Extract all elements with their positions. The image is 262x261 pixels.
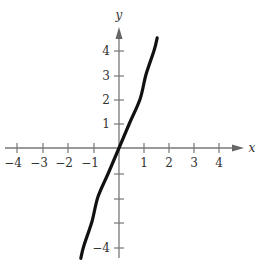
x-tick-label: −4 (4, 156, 22, 170)
y-tick-label: −4 (92, 241, 110, 255)
x-tick-label: 3 (190, 156, 198, 170)
y-axis-arrow-icon (116, 27, 123, 39)
y-axis-label: y (115, 8, 123, 22)
x-axis-arrow-icon (232, 145, 244, 152)
x-tick-label: 1 (140, 156, 148, 170)
x-tick-label: −1 (81, 156, 99, 170)
x-tick-label: 2 (165, 156, 173, 170)
x-tick-label: 4 (215, 156, 223, 170)
graph: −4 −3 −2 −1 1 2 3 4 1 2 3 4 −4 x y (0, 0, 262, 261)
y-tick-label: 2 (102, 93, 110, 107)
y-tick-label: 3 (102, 69, 110, 83)
x-tick-label: −2 (55, 156, 73, 170)
y-tick-label: 1 (102, 117, 110, 131)
y-tick-label: 4 (102, 44, 110, 58)
x-tick-label: −3 (30, 156, 48, 170)
x-axis-label: x (249, 141, 256, 155)
